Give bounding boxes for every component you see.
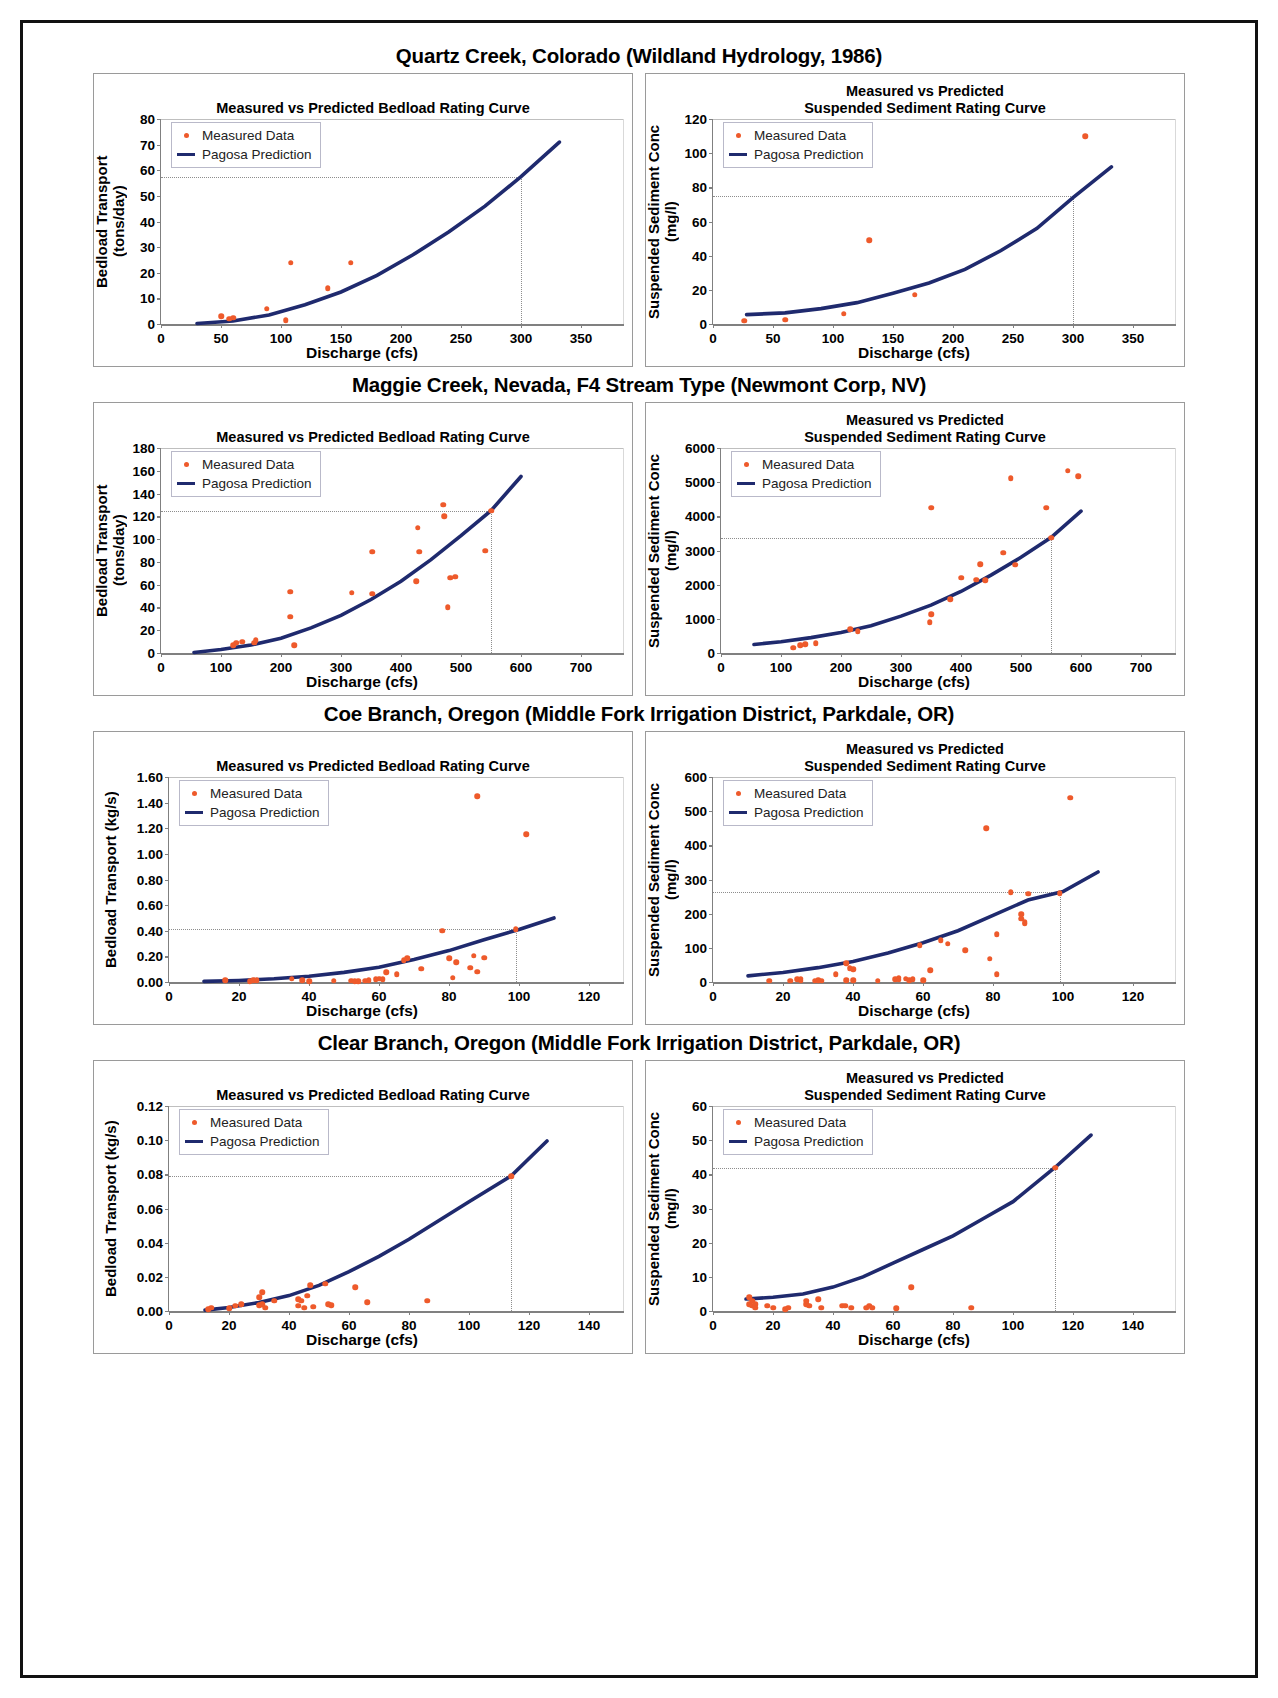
data-point: [869, 1305, 875, 1311]
line-icon: [177, 153, 195, 157]
y-tick: 120: [132, 509, 155, 524]
x-tick-mark: [221, 324, 222, 328]
y-tick: 30: [692, 1201, 707, 1216]
x-tick: 200: [390, 331, 413, 346]
x-tick-mark: [961, 653, 962, 657]
data-point: [369, 591, 375, 597]
data-point: [1052, 1165, 1058, 1171]
x-tick-mark: [833, 1311, 834, 1315]
x-tick: 400: [950, 660, 973, 675]
x-tick: 120: [1122, 989, 1145, 1004]
data-point: [310, 1304, 316, 1310]
data-point: [383, 970, 389, 976]
data-point: [813, 640, 819, 646]
x-tick-mark: [953, 324, 954, 328]
x-tick: 100: [210, 660, 233, 675]
y-tick: 500: [684, 804, 707, 819]
x-tick-mark: [221, 653, 222, 657]
line-icon: [177, 482, 195, 486]
legend: Measured DataPagosa Prediction: [179, 780, 329, 826]
plot-canvas: Measured DataPagosa Prediction0501001502…: [160, 119, 624, 324]
y-tick: 0.80: [137, 872, 163, 887]
chart-title-line1: Measured vs Predicted: [674, 412, 1176, 429]
data-point: [787, 978, 793, 984]
data-point: [380, 977, 386, 983]
legend-item-measured: Measured Data: [177, 126, 312, 145]
legend: Measured DataPagosa Prediction: [723, 1109, 873, 1155]
data-point: [256, 1295, 262, 1301]
predicted-line-icon: [177, 482, 195, 486]
measured-marker-icon: [729, 133, 747, 138]
panel-1: Maggie Creek, Nevada, F4 Stream Type (Ne…: [48, 373, 1230, 696]
data-point: [453, 959, 459, 965]
data-point: [301, 1305, 307, 1311]
y-tick: 400: [684, 838, 707, 853]
x-tick: 100: [1052, 989, 1075, 1004]
data-point: [349, 590, 355, 596]
x-tick: 700: [1130, 660, 1153, 675]
data-point: [1012, 562, 1018, 568]
x-tick-mark: [161, 324, 162, 328]
dot-icon: [736, 1120, 741, 1125]
data-point: [945, 941, 951, 947]
plot-right-border: [623, 119, 624, 324]
x-tick: 50: [765, 331, 780, 346]
y-tick: 0.10: [137, 1133, 163, 1148]
y-tick: 180: [132, 441, 155, 456]
data-point: [920, 978, 926, 984]
data-point: [439, 928, 445, 934]
data-point: [481, 955, 487, 961]
legend-label-predicted: Pagosa Prediction: [754, 1134, 864, 1149]
x-tick: 140: [578, 1318, 601, 1333]
y-tick: 1.20: [137, 821, 163, 836]
plot-inner: Measured DataPagosa Prediction0100200300…: [721, 448, 1176, 653]
x-tick-mark: [529, 1311, 530, 1315]
data-point: [287, 589, 293, 595]
x-tick: 80: [401, 1318, 416, 1333]
y-tick: 5000: [685, 475, 715, 490]
x-tick-mark: [521, 653, 522, 657]
chart-coe-bedload: Measured vs Predicted Bedload Rating Cur…: [93, 731, 633, 1025]
data-point: [325, 285, 331, 291]
plot-canvas: Measured DataPagosa Prediction0204060801…: [712, 777, 1176, 982]
y-axis-label: Bedload Transport (tons/day): [100, 119, 120, 324]
chart-title: Measured vs Predicted Bedload Rating Cur…: [100, 1070, 624, 1104]
y-axis-label: Bedload Transport (tons/day): [100, 448, 120, 653]
data-point: [404, 956, 410, 962]
x-tick: 0: [709, 1318, 717, 1333]
plot-inner: Measured DataPagosa Prediction0100200300…: [161, 448, 624, 653]
panel-2: Coe Branch, Oregon (Middle Fork Irrigati…: [48, 702, 1230, 1025]
data-point: [446, 956, 452, 962]
chart-quartz-suspended: Measured vs PredictedSuspended Sediment …: [645, 73, 1185, 367]
dot-icon: [192, 791, 197, 796]
y-tick: 0.04: [137, 1235, 163, 1250]
x-tick: 400: [390, 660, 413, 675]
x-tick: 600: [1070, 660, 1093, 675]
y-tick: 0.12: [137, 1099, 163, 1114]
x-tick: 0: [165, 989, 173, 1004]
y-tick: 4000: [685, 509, 715, 524]
data-point: [866, 238, 872, 244]
data-point: [299, 977, 305, 983]
data-point: [482, 548, 488, 554]
data-point: [802, 642, 808, 648]
x-axis-label: Discharge (cfs): [652, 1002, 1176, 1020]
data-point: [910, 977, 916, 983]
chart-title: Measured vs PredictedSuspended Sediment …: [652, 412, 1176, 446]
x-tick: 80: [945, 1318, 960, 1333]
panel-0: Quartz Creek, Colorado (Wildland Hydrolo…: [48, 44, 1230, 367]
data-point: [259, 1289, 265, 1295]
x-tick: 0: [157, 660, 165, 675]
x-tick: 80: [985, 989, 1000, 1004]
y-tick-labels: 0100200300400500600: [672, 777, 712, 982]
line-icon: [729, 811, 747, 815]
x-tick-mark: [783, 982, 784, 986]
data-point: [394, 972, 400, 978]
y-tick-labels: 0100020003000400050006000: [672, 448, 720, 653]
data-point: [1043, 505, 1049, 511]
x-tick: 350: [570, 331, 593, 346]
chart-title: Measured vs PredictedSuspended Sediment …: [652, 83, 1176, 117]
legend-label-measured: Measured Data: [754, 1115, 846, 1130]
data-point: [855, 629, 861, 635]
data-point: [819, 978, 825, 984]
